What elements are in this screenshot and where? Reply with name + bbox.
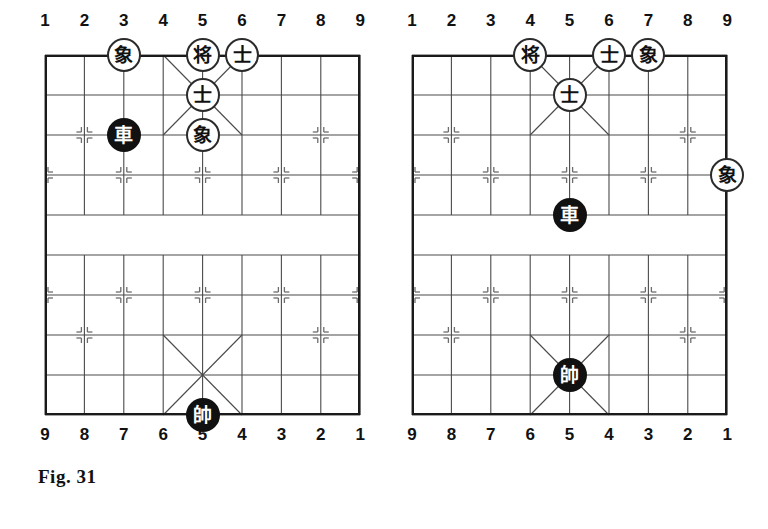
file-label-bottom: 4 [229, 424, 255, 446]
file-label-top: 5 [557, 10, 583, 32]
piece-glyph: 士 [560, 85, 579, 104]
piece-glyph: 象 [193, 125, 212, 144]
piece-black-elephant[interactable]: 象 [186, 118, 220, 152]
file-label-bottom: 6 [517, 424, 543, 446]
file-label-top: 6 [229, 10, 255, 32]
file-label-bottom: 8 [71, 424, 97, 446]
figure-32: 123456789 将士象士象車帥 987654321 Fig. 32 [384, 0, 768, 529]
piece-black-general[interactable]: 将 [513, 38, 547, 72]
file-labels-bottom: 987654321 [384, 424, 768, 450]
piece-glyph: 士 [233, 45, 252, 64]
file-label-top: 7 [635, 10, 661, 32]
piece-glyph: 士 [600, 45, 619, 64]
file-label-top: 3 [111, 10, 137, 32]
file-label-bottom: 9 [32, 424, 58, 446]
figure-31: 123456789 象将士士車象帥 987654321 Fig. 31 [0, 0, 384, 529]
xiangqi-board[interactable]: 将士象士象車帥 [412, 55, 727, 415]
piece-glyph: 象 [114, 45, 133, 64]
piece-red-chariot[interactable]: 車 [553, 198, 587, 232]
file-label-top: 4 [517, 10, 543, 32]
file-label-bottom: 7 [111, 424, 137, 446]
file-label-top: 3 [478, 10, 504, 32]
piece-glyph: 将 [521, 45, 540, 64]
piece-black-advisor[interactable]: 士 [592, 38, 626, 72]
piece-black-elephant[interactable]: 象 [107, 38, 141, 72]
file-label-top: 8 [308, 10, 334, 32]
file-label-top: 9 [714, 10, 740, 32]
file-labels-top: 123456789 [384, 10, 768, 36]
piece-glyph: 象 [718, 165, 737, 184]
file-label-bottom: 2 [675, 424, 701, 446]
piece-black-advisor[interactable]: 士 [553, 78, 587, 112]
file-labels-top: 123456789 [0, 10, 384, 36]
xiangqi-board[interactable]: 象将士士車象帥 [45, 55, 360, 415]
piece-glyph: 車 [560, 205, 579, 224]
piece-glyph: 将 [193, 45, 212, 64]
file-label-top: 7 [268, 10, 294, 32]
file-label-bottom: 2 [308, 424, 334, 446]
piece-black-advisor[interactable]: 士 [186, 78, 220, 112]
file-label-top: 8 [675, 10, 701, 32]
file-label-bottom: 3 [635, 424, 661, 446]
file-label-top: 4 [150, 10, 176, 32]
file-label-bottom: 8 [438, 424, 464, 446]
piece-glyph: 士 [193, 85, 212, 104]
file-label-top: 2 [71, 10, 97, 32]
file-label-top: 9 [347, 10, 373, 32]
piece-black-general[interactable]: 将 [186, 38, 220, 72]
file-label-top: 6 [596, 10, 622, 32]
file-label-bottom: 9 [399, 424, 425, 446]
piece-red-chariot[interactable]: 車 [107, 118, 141, 152]
file-label-bottom: 5 [557, 424, 583, 446]
piece-glyph: 帥 [560, 365, 579, 384]
file-label-bottom: 1 [347, 424, 373, 446]
file-label-top: 1 [399, 10, 425, 32]
piece-glyph: 帥 [193, 405, 212, 424]
file-label-bottom: 6 [150, 424, 176, 446]
file-label-top: 5 [190, 10, 216, 32]
file-label-bottom: 3 [268, 424, 294, 446]
piece-red-general[interactable]: 帥 [186, 398, 220, 432]
figure-caption: Fig. 31 [38, 466, 96, 488]
piece-glyph: 車 [114, 125, 133, 144]
piece-black-elephant[interactable]: 象 [710, 158, 744, 192]
file-label-top: 1 [32, 10, 58, 32]
file-label-bottom: 7 [478, 424, 504, 446]
piece-black-advisor[interactable]: 士 [225, 38, 259, 72]
piece-red-general[interactable]: 帥 [553, 358, 587, 392]
file-label-bottom: 1 [714, 424, 740, 446]
piece-glyph: 象 [639, 45, 658, 64]
file-label-bottom: 4 [596, 424, 622, 446]
file-label-top: 2 [438, 10, 464, 32]
